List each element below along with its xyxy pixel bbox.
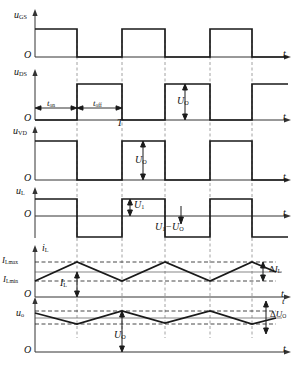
label-t-axis-u-l: t: [283, 208, 286, 218]
u-ds-y-arrow: [32, 69, 37, 76]
label-t-axis-u-vd: t: [283, 172, 286, 182]
label-t-axis-u-o-top: t: [282, 297, 285, 306]
label-origin-u-o: O: [24, 345, 31, 355]
label-i-lmax: ILmax: [2, 256, 18, 266]
label-uo-on-u-ds: UO: [177, 96, 189, 107]
u-ds-waveform: [35, 84, 288, 120]
label-u-o: uo: [16, 308, 24, 319]
label-origin-u-ds: O: [24, 113, 31, 123]
label-t-axis-u-gs: t: [283, 49, 286, 59]
trace-i-l: [32, 245, 291, 300]
u-gs-waveform: [35, 29, 288, 57]
label-u-vd: uVD: [13, 126, 27, 137]
u-gs-y-arrow: [32, 9, 37, 16]
label-origin-u-gs: O: [24, 50, 31, 60]
u-l-y-arrow: [32, 187, 37, 194]
label-uo-on-u-vd: UO: [135, 155, 147, 166]
delta-i-l-measure-arrow: [261, 262, 266, 281]
label-t-on: ton: [47, 99, 55, 109]
u-o-y-arrow: [32, 297, 37, 304]
label-t-off: toff: [93, 99, 102, 109]
label-uo-mean: UO: [114, 330, 126, 341]
i-l-mean-measure-arrow: [75, 272, 80, 297]
label-origin-u-vd: O: [24, 173, 31, 183]
label-period-T: T: [117, 118, 123, 128]
u-vd-waveform: [35, 141, 288, 180]
i-l-waveform: [35, 262, 276, 281]
label-delta-u-o: ΔUO: [270, 310, 286, 320]
trace-u-ds: [32, 69, 291, 123]
label-origin-u-l: O: [24, 209, 31, 219]
t-on-measure-arrow: [35, 106, 77, 110]
label-u-l: uL: [16, 186, 25, 197]
i-l-t-arrow: [284, 294, 291, 299]
trace-u-gs: [32, 9, 291, 60]
label-i-lmin: ILmin: [3, 275, 18, 285]
u-l-u1-measure-arrow: [128, 199, 133, 216]
label-u-ds: uDS: [14, 67, 27, 78]
i-l-y-arrow: [32, 245, 37, 252]
waveform-timing-diagram: [0, 0, 299, 369]
label-u-gs: uGS: [14, 10, 27, 21]
label-t-axis-u-o: t: [283, 344, 286, 354]
label-u1-minus-uo: U1−UO: [155, 222, 184, 233]
label-i-l-mean: IL: [60, 278, 67, 289]
u-o-waveform: [35, 311, 276, 324]
label-origin-i-l: O: [24, 289, 31, 299]
label-u1: U1: [134, 200, 144, 211]
u-vd-y-arrow: [32, 126, 37, 133]
delta-u-o-measure-arrow: [264, 301, 269, 334]
label-t-axis-u-ds: t: [283, 112, 286, 122]
label-delta-i-l: ΔIL: [269, 265, 281, 275]
label-i-l: iL: [42, 243, 49, 254]
